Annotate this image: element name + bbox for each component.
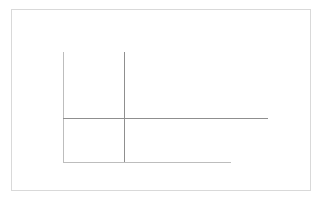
target-production-line — [63, 118, 268, 119]
bar-series-group — [64, 53, 230, 162]
chart-screenshot — [0, 0, 322, 200]
x-axis-labels — [64, 163, 230, 193]
plot-area — [64, 53, 230, 162]
chart-frame — [11, 9, 311, 191]
introduction-marker-line — [124, 52, 125, 162]
